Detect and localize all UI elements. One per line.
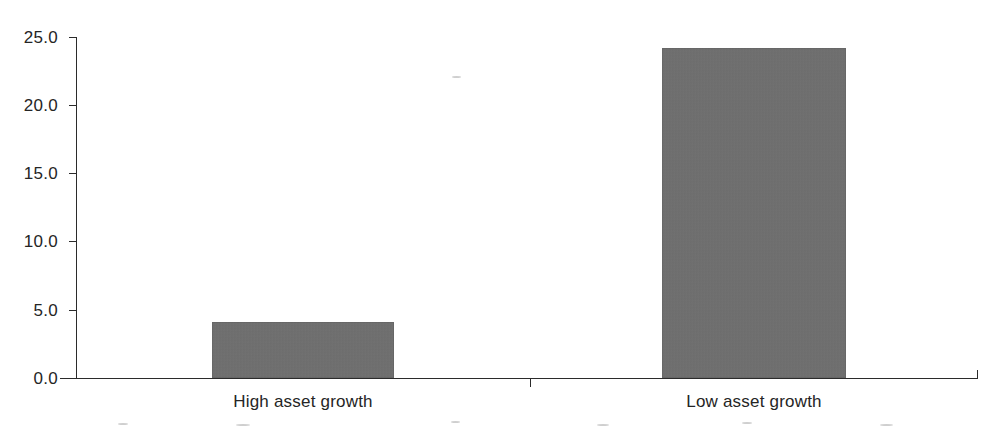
scan-speck	[742, 422, 752, 424]
y-axis-tick-10	[69, 241, 77, 242]
x-axis-line	[60, 378, 978, 379]
x-axis-label-low-asset-growth: Low asset growth	[654, 392, 854, 412]
scan-speck	[597, 424, 609, 426]
y-axis-tick-20	[69, 105, 77, 106]
y-axis-label-15: 15.0	[0, 164, 58, 184]
x-axis-tick-midpoint	[530, 378, 531, 387]
y-axis-tick-25	[69, 37, 77, 38]
y-axis-label-25: 25.0	[0, 28, 58, 48]
scan-speck	[236, 424, 250, 426]
x-axis-label-high-asset-growth: High asset growth	[203, 392, 403, 412]
plot-area: 25.0 20.0 15.0 10.0 5.0 0.0 High asset g…	[0, 0, 1005, 432]
scan-speck	[880, 424, 893, 426]
y-axis-line	[76, 37, 77, 379]
y-axis-tick-15	[69, 173, 77, 174]
y-axis-label-0: 0.0	[0, 369, 58, 389]
y-axis-tick-0	[62, 378, 77, 379]
y-axis-label-5: 5.0	[0, 301, 58, 321]
scan-speck	[118, 423, 128, 425]
scan-speck	[451, 421, 460, 423]
scan-speck	[452, 76, 461, 78]
bar-high-asset-growth	[212, 322, 394, 378]
bar-low-asset-growth	[662, 48, 846, 378]
y-axis-label-20: 20.0	[0, 96, 58, 116]
bar-chart: 25.0 20.0 15.0 10.0 5.0 0.0 High asset g…	[0, 0, 1005, 432]
y-axis-label-10: 10.0	[0, 232, 58, 252]
y-axis-tick-5	[69, 310, 77, 311]
